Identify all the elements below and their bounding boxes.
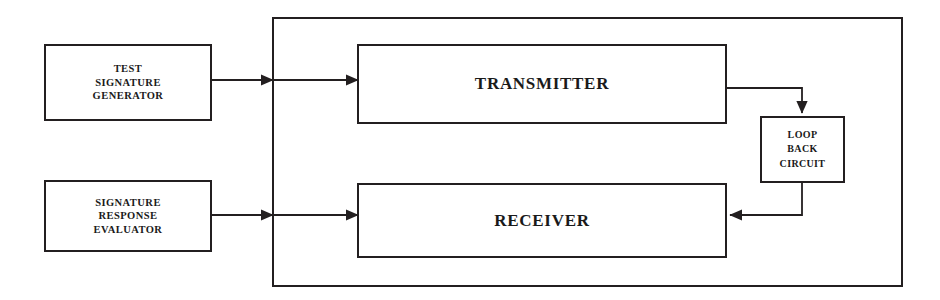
connector-transmitter-to-loop-back: [727, 88, 802, 113]
node-receiver[interactable]: RECEIVER: [357, 183, 727, 258]
node-receiver-label: RECEIVER: [494, 210, 589, 232]
node-signature-response-evaluator-label: SIGNATURE RESPONSE EVALUATOR: [94, 196, 163, 236]
node-test-signature-generator[interactable]: TEST SIGNATURE GENERATOR: [44, 44, 212, 121]
block-diagram: TEST SIGNATURE GENERATOR SIGNATURE RESPO…: [0, 0, 940, 300]
connector-loop-back-to-receiver: [730, 183, 802, 215]
node-transmitter[interactable]: TRANSMITTER: [357, 44, 727, 124]
node-loop-back-circuit[interactable]: LOOP BACK CIRCUIT: [760, 116, 845, 183]
node-transmitter-label: TRANSMITTER: [475, 73, 609, 95]
node-loop-back-circuit-label: LOOP BACK CIRCUIT: [780, 128, 826, 172]
node-test-signature-generator-label: TEST SIGNATURE GENERATOR: [93, 62, 164, 102]
node-signature-response-evaluator[interactable]: SIGNATURE RESPONSE EVALUATOR: [44, 180, 212, 252]
